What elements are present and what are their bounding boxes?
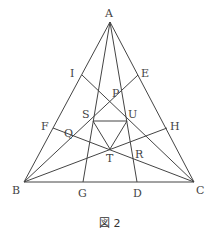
label-R: R (135, 148, 144, 161)
label-D: D (133, 187, 142, 200)
label-F: F (41, 120, 49, 133)
figure-caption: 図 2 (99, 217, 121, 230)
side-AB (24, 22, 110, 182)
label-C: C (196, 184, 204, 197)
label-H: H (170, 120, 180, 133)
label-Q: Q (64, 127, 73, 140)
label-U: U (128, 108, 137, 121)
label-E: E (141, 67, 149, 80)
label-P: P (112, 87, 120, 100)
label-A: A (104, 7, 114, 20)
label-B: B (12, 184, 20, 197)
label-S: S (82, 108, 90, 121)
triangle-diagram: A B C I E F H G D S U T P Q R 図 2 (0, 0, 219, 235)
side-CA (110, 22, 194, 182)
segment-CF (53, 128, 194, 182)
label-T: T (106, 152, 114, 165)
label-I: I (70, 67, 74, 80)
label-G: G (78, 187, 87, 200)
segment-AD (110, 22, 137, 182)
